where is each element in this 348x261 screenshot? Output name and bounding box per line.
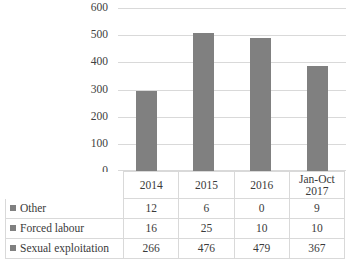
bar-2016 (250, 38, 271, 171)
cell-forced-labour-2015: 25 (179, 219, 234, 239)
y-axis-tick: 500 (91, 29, 108, 41)
cell-sexual-exploitation-2015: 476 (179, 239, 234, 259)
bar-slot (232, 8, 289, 171)
cell-forced-labour-2014: 16 (124, 219, 179, 239)
cell-forced-labour-2016: 10 (234, 219, 289, 239)
category-header-2016: 2016 (234, 172, 289, 199)
cell-sexual-exploitation-jan-oct-2017: 367 (289, 239, 344, 259)
category-header-jan-oct-2017: Jan-Oct 2017 (289, 172, 344, 199)
data-table: 2014 2015 2016 Jan-Oct 2017 Other 12 6 (5, 171, 345, 259)
bar-slot (118, 8, 175, 171)
cell-sexual-exploitation-2014: 266 (124, 239, 179, 259)
plot-region: 600 500 400 300 200 100 0 (0, 0, 348, 180)
bar-slot (175, 8, 232, 171)
cell-other-2014: 12 (124, 199, 179, 219)
table-row-categories: 2014 2015 2016 Jan-Oct 2017 (6, 172, 345, 199)
category-label-line: 2017 (290, 185, 344, 197)
category-label-line: 2016 (235, 179, 289, 191)
y-axis: 600 500 400 300 200 100 0 (0, 0, 114, 180)
cell-other-2015: 6 (179, 199, 234, 219)
legend-swatch-icon (10, 225, 16, 231)
legend-swatch-icon (10, 205, 16, 211)
category-header-2014: 2014 (124, 172, 179, 199)
legend-label: Sexual exploitation (20, 242, 109, 254)
cell-other-jan-oct-2017: 9 (289, 199, 344, 219)
legend-entry-forced-labour: Forced labour (6, 219, 124, 239)
bar-2015 (193, 33, 214, 171)
legend-label: Other (20, 202, 46, 214)
bars-layer (118, 8, 346, 171)
cell-sexual-exploitation-2016: 479 (234, 239, 289, 259)
cell-other-2016: 0 (234, 199, 289, 219)
bar-slot (289, 8, 346, 171)
table-row: Sexual exploitation 266 476 479 367 (6, 239, 345, 259)
y-axis-tick: 600 (91, 2, 108, 14)
table-row: Forced labour 16 25 10 10 (6, 219, 345, 239)
y-axis-tick: 100 (91, 138, 108, 150)
category-label-line: 2015 (179, 179, 233, 191)
cell-forced-labour-jan-oct-2017: 10 (289, 219, 344, 239)
category-header-2015: 2015 (179, 172, 234, 199)
bar-chart-with-data-table: 600 500 400 300 200 100 0 (0, 0, 348, 261)
legend-entry-other: Other (6, 199, 124, 219)
category-label-line: 2014 (124, 179, 178, 191)
plot-area (118, 8, 346, 171)
bar-jan-oct-2017 (307, 66, 328, 171)
legend-entry-sexual-exploitation: Sexual exploitation (6, 239, 124, 259)
legend-label: Forced labour (20, 222, 84, 234)
legend-swatch-icon (10, 245, 16, 251)
y-axis-tick: 200 (91, 111, 108, 123)
category-label-line: Jan-Oct (290, 173, 344, 185)
table-row: Other 12 6 0 9 (6, 199, 345, 219)
table-corner-cell (6, 172, 124, 199)
y-axis-tick: 400 (91, 57, 108, 69)
bar-2014 (136, 91, 157, 171)
y-axis-tick: 300 (91, 84, 108, 96)
